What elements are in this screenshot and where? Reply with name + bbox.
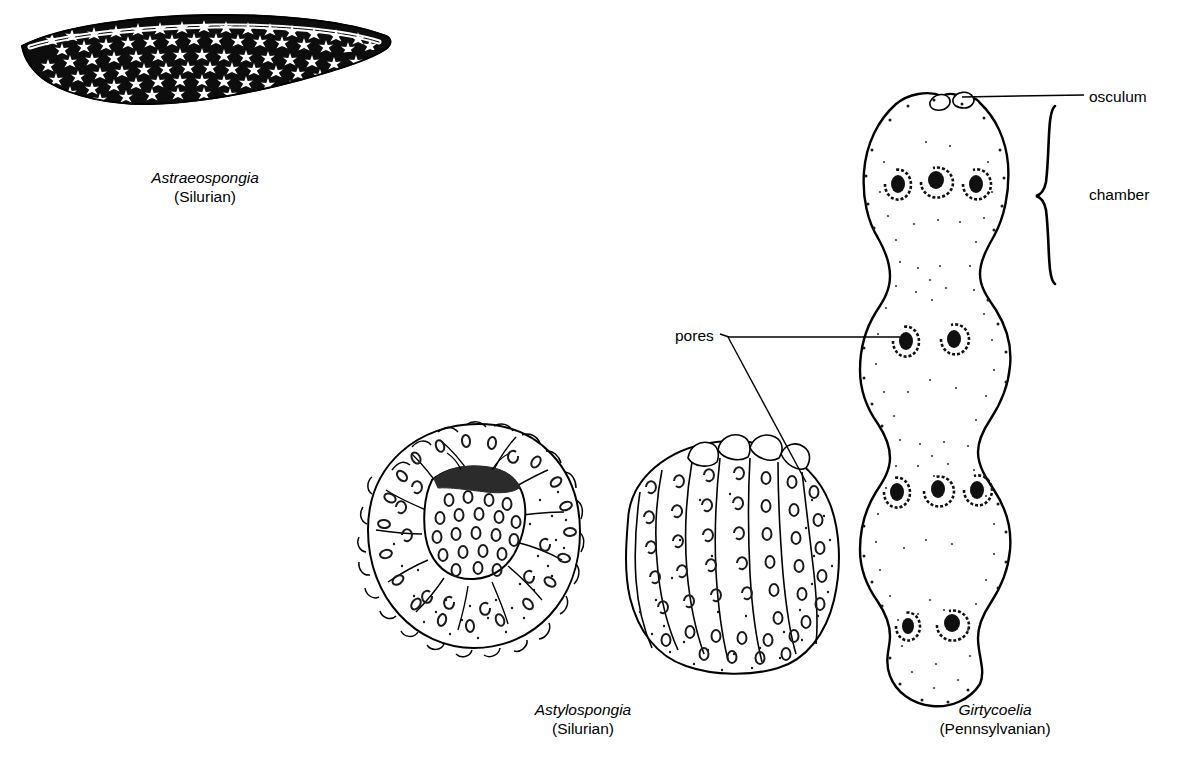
caption-astraeospongia: Astraeospongia (Silurian) [55, 168, 355, 207]
astylospongia-top-view-drawing [358, 422, 584, 657]
astylospongia-side-view-drawing [626, 435, 839, 674]
caption-genus: Girtycoelia [845, 700, 1145, 719]
caption-age: (Silurian) [438, 719, 728, 738]
chamber-brace [1036, 106, 1055, 284]
label-pores: pores [675, 327, 714, 345]
label-osculum: osculum [1089, 88, 1147, 106]
caption-genus: Astraeospongia [55, 168, 355, 187]
caption-age: (Pennsylvanian) [845, 719, 1145, 738]
illustration-sheet: Astraeospongia (Silurian) Astylospongia … [0, 0, 1177, 777]
label-chamber: chamber [1089, 186, 1149, 204]
figure-artwork [0, 0, 1177, 777]
caption-girtycoelia: Girtycoelia (Pennsylvanian) [845, 700, 1145, 739]
pores-leader-stub [720, 334, 729, 337]
girtycoelia-drawing [860, 92, 1010, 706]
osculum-leader-line [962, 95, 1084, 97]
astraeospongia-drawing [22, 15, 391, 106]
caption-genus: Astylospongia [438, 700, 728, 719]
caption-astylospongia: Astylospongia (Silurian) [438, 700, 728, 739]
caption-age: (Silurian) [55, 187, 355, 206]
